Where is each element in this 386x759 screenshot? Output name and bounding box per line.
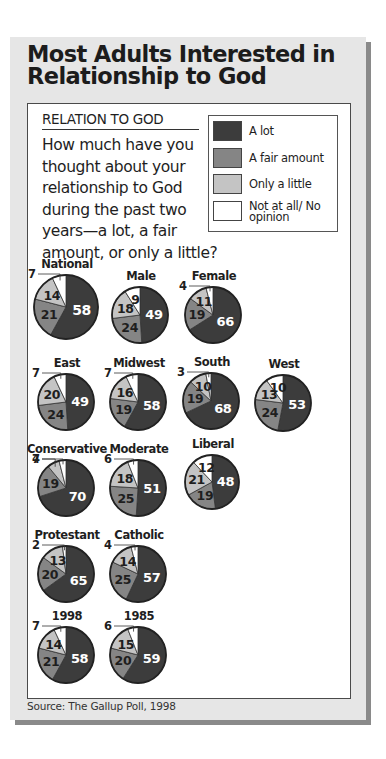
pie-value-label: 20 — [43, 387, 60, 402]
pie-value-label: 49 — [71, 394, 89, 409]
pie-title: Liberal — [192, 437, 234, 451]
pie-liberal: Liberal48192112 — [185, 437, 239, 509]
pie-value-label: 24 — [121, 320, 138, 335]
pie-value-label: 7 — [32, 366, 40, 380]
pie-title: Moderate — [110, 442, 170, 456]
pie-value-label: 7 — [32, 619, 40, 633]
pie-value-label: 12 — [198, 460, 215, 475]
pie-charts: National5821147Male4924189Female6619114E… — [0, 0, 386, 759]
pie-midwest: Midwest5819167 — [104, 356, 166, 430]
pie-title: Catholic — [114, 528, 164, 542]
pie-value-label: 59 — [143, 651, 161, 666]
pie-female: Female6619114 — [179, 269, 241, 343]
pie-value-label: 20 — [41, 567, 58, 582]
pie-value-label: 9 — [131, 292, 139, 307]
pie-value-label: 10 — [195, 379, 212, 394]
pie-value-label: 4 — [179, 279, 187, 293]
pie-title: National — [41, 257, 92, 271]
pie-catholic: Catholic5725144 — [104, 528, 166, 602]
pie-value-label: 7 — [28, 267, 36, 281]
pie-value-label: 3 — [177, 365, 185, 379]
pie-value-label: 24 — [262, 405, 279, 420]
pie-value-label: 4 — [104, 538, 112, 552]
pie-title: East — [54, 356, 81, 370]
pie-moderate: Moderate5125186 — [104, 442, 169, 516]
pie-value-label: 19 — [197, 488, 214, 503]
pie-title: Male — [126, 269, 156, 283]
pie-value-label: 18 — [117, 471, 134, 486]
pie-title: Female — [192, 269, 237, 283]
pie-national: National5821147 — [28, 257, 98, 339]
pie-value-label: 7 — [104, 366, 112, 380]
pie-value-label: 57 — [143, 570, 161, 585]
pie-value-label: 19 — [115, 402, 132, 417]
pie-value-label: 2 — [32, 538, 40, 552]
pie-value-label: 58 — [71, 651, 89, 666]
pie-value-label: 70 — [69, 489, 87, 504]
pie-east: East4924207 — [32, 356, 94, 430]
pie-value-label: 6 — [104, 619, 112, 633]
pie-title: West — [269, 357, 301, 371]
pie-value-label: 58 — [72, 302, 91, 318]
pie-value-label: 66 — [217, 314, 235, 329]
pie-value-label: 21 — [41, 307, 58, 322]
pie-1985: 19855920156 — [104, 609, 166, 683]
pie-male: Male4924189 — [112, 269, 168, 343]
pie-value-label: 48 — [217, 474, 235, 489]
pie-conservative: Conservative701974 — [27, 442, 108, 516]
pie-value-label: 25 — [114, 572, 131, 587]
pie-title: South — [194, 355, 230, 369]
pie-value-label: 16 — [117, 385, 134, 400]
pie-value-label: 58 — [143, 398, 161, 413]
pie-value-label: 19 — [188, 307, 205, 322]
pie-value-label: 11 — [196, 294, 213, 309]
pie-value-label: 65 — [70, 573, 88, 588]
pie-value-label: 4 — [32, 452, 40, 466]
pie-value-label: 53 — [288, 397, 306, 412]
pie-value-label: 51 — [143, 481, 161, 496]
pie-title: 1985 — [124, 609, 155, 623]
pie-value-label: 19 — [42, 476, 59, 491]
pie-title: 1998 — [52, 609, 83, 623]
pie-1998: 19985821147 — [32, 609, 94, 683]
pie-value-label: 15 — [118, 637, 135, 652]
pie-value-label: 25 — [118, 491, 135, 506]
pie-value-label: 6 — [104, 452, 112, 466]
pie-value-label: 13 — [49, 553, 66, 568]
pie-value-label: 68 — [214, 401, 232, 416]
pie-value-label: 14 — [45, 637, 62, 652]
pie-value-label: 49 — [145, 307, 163, 322]
pie-title: Midwest — [113, 356, 165, 370]
pie-value-label: 10 — [270, 380, 287, 395]
pie-value-label: 21 — [43, 654, 60, 669]
pie-title: Protestant — [34, 528, 100, 542]
pie-value-label: 14 — [119, 554, 136, 569]
pie-value-label: 20 — [115, 653, 132, 668]
pie-value-label: 24 — [47, 407, 64, 422]
pie-west: West53241310 — [255, 357, 311, 431]
pie-south: South6819103 — [177, 355, 239, 429]
pie-value-label: 14 — [43, 288, 60, 303]
pie-protestant: Protestant6520132 — [32, 528, 100, 602]
